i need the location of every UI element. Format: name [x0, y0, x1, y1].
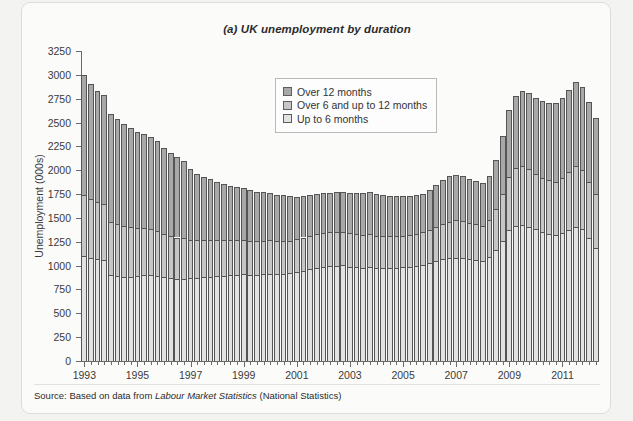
x-axis-tick: [576, 361, 577, 365]
bar-segment-s1: [400, 236, 406, 267]
bar-segment-s0: [560, 233, 566, 361]
legend-swatch-over-12-months: [283, 87, 292, 96]
x-axis-major-tick: [350, 361, 351, 367]
x-axis-tick: [237, 361, 238, 365]
bar-segment-s2: [201, 177, 207, 240]
bar-2011Q3: [573, 82, 579, 361]
bar-2011Q2: [566, 90, 572, 361]
bar-2004Q1: [374, 194, 380, 361]
y-axis-tick: [76, 123, 81, 124]
y-axis-tick-label: 250: [53, 331, 71, 343]
y-axis-tick-label: 2500: [48, 117, 71, 129]
x-axis-tick: [184, 361, 185, 365]
bar-segment-s1: [467, 223, 473, 259]
bar-segment-s0: [161, 277, 167, 361]
bar-segment-s2: [586, 102, 592, 182]
bar-segment-s2: [294, 197, 300, 240]
bar-segment-s2: [513, 96, 519, 168]
bar-segment-s0: [513, 226, 519, 361]
bar-segment-s0: [294, 272, 300, 361]
bar-segment-s1: [181, 238, 187, 279]
bar-segment-s2: [566, 90, 572, 172]
bar-1994Q2: [115, 119, 121, 361]
bar-2001Q1: [294, 197, 300, 361]
y-axis-tick: [76, 337, 81, 338]
bar-1998Q4: [234, 187, 240, 361]
bar-segment-s2: [560, 98, 566, 178]
x-axis-tick: [230, 361, 231, 365]
bar-segment-s0: [586, 238, 592, 361]
x-axis-tick-label: 1995: [126, 369, 149, 381]
bar-segment-s1: [566, 172, 572, 230]
bar-segment-s1: [301, 238, 307, 271]
bar-segment-s2: [360, 193, 366, 235]
bar-segment-s1: [88, 199, 94, 258]
bar-segment-s0: [88, 258, 94, 361]
bar-2000Q3: [281, 195, 287, 361]
bar-1999Q3: [254, 192, 260, 361]
bar-segment-s2: [307, 195, 313, 236]
bar-segment-s1: [367, 234, 373, 267]
x-axis-tick: [416, 361, 417, 365]
bar-1995Q4: [155, 141, 161, 361]
legend-item: Up to 6 months: [283, 113, 427, 125]
x-axis-tick: [390, 361, 391, 365]
bar-segment-s0: [360, 268, 366, 361]
bar-segment-s0: [447, 258, 453, 361]
x-axis-tick: [589, 361, 590, 365]
bar-2006Q3: [440, 180, 446, 361]
source-suffix: (National Statistics): [257, 390, 341, 401]
bar-segment-s2: [221, 184, 227, 240]
bar-segment-s0: [487, 257, 493, 361]
bar-segment-s0: [334, 266, 340, 361]
x-axis-tick: [104, 361, 105, 365]
bar-1995Q3: [148, 137, 154, 361]
bar-segment-s2: [155, 141, 161, 231]
bar-2010Q3: [546, 103, 552, 361]
x-axis-tick-label: 1999: [232, 369, 255, 381]
bar-segment-s0: [108, 275, 114, 361]
bar-segment-s2: [526, 93, 532, 169]
bar-segment-s1: [553, 182, 559, 235]
bar-2006Q2: [433, 185, 439, 361]
bar-segment-s2: [506, 110, 512, 177]
x-axis-tick: [323, 361, 324, 365]
y-axis-tick-label: 750: [53, 283, 71, 295]
bar-segment-s0: [380, 268, 386, 361]
y-axis-title: Unemployment (000s): [33, 154, 45, 257]
bar-segment-s0: [101, 260, 107, 361]
x-axis-tick: [197, 361, 198, 365]
bar-segment-s0: [321, 267, 327, 361]
bar-segment-s1: [135, 228, 141, 276]
bar-segment-s2: [168, 153, 174, 236]
bar-segment-s1: [414, 234, 420, 266]
x-axis-major-tick: [191, 361, 192, 367]
bar-2006Q1: [427, 190, 433, 361]
bar-segment-s1: [314, 234, 320, 268]
bar-segment-s1: [155, 231, 161, 276]
bar-segment-s1: [546, 180, 552, 234]
x-axis-tick-label: 2011: [551, 369, 574, 381]
x-axis-major-tick: [137, 361, 138, 367]
bar-segment-s0: [301, 271, 307, 361]
bar-segment-s2: [254, 192, 260, 241]
bar-segment-s1: [95, 202, 101, 259]
bar-segment-s1: [420, 232, 426, 264]
bar-segment-s0: [327, 266, 333, 361]
bar-2011Q4: [580, 87, 586, 361]
x-axis-tick: [211, 361, 212, 365]
bar-2002Q2: [327, 193, 333, 361]
bar-2008Q4: [500, 136, 506, 361]
bar-segment-s0: [81, 256, 87, 361]
bar-segment-s0: [221, 276, 227, 361]
x-axis-tick: [290, 361, 291, 365]
bar-2011Q1: [560, 98, 566, 361]
bar-segment-s1: [281, 241, 287, 274]
x-axis-tick: [516, 361, 517, 365]
bar-2000Q4: [287, 196, 293, 361]
bar-segment-s1: [201, 240, 207, 277]
bar-segment-s0: [506, 230, 512, 361]
bar-segment-s2: [228, 186, 234, 241]
legend-label-over-12-months: Over 12 months: [297, 86, 372, 98]
x-axis-tick: [436, 361, 437, 365]
